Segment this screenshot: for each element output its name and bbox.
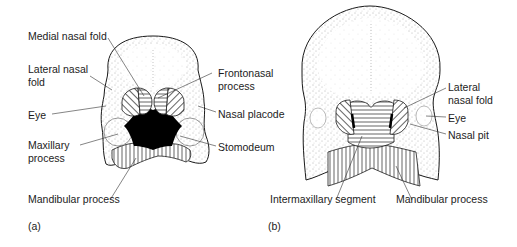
label-eye-b: Eye [448, 112, 466, 124]
panel-b-drawing [302, 6, 446, 200]
panel-b-tag: (b) [268, 220, 281, 232]
label-frontonasal-process-line2: process [218, 80, 255, 92]
label-nasal-pit: Nasal pit [448, 129, 489, 141]
label-medial-nasal-fold: Medial nasal fold [28, 30, 107, 42]
label-stomodeum: Stomodeum [218, 141, 275, 153]
label-mandibular-process-a: Mandibular process [28, 193, 120, 205]
label-mandibular-process-b: Mandibular process [396, 193, 488, 205]
label-lateral-nasal-fold-a-line1: Lateral nasal [28, 63, 88, 75]
label-maxillary-process-line2: process [28, 152, 65, 164]
label-maxillary-process-line1: Maxillary [28, 139, 69, 151]
label-lateral-nasal-fold-a-line2: fold [28, 76, 45, 88]
panel-a-tag: (a) [28, 220, 41, 232]
label-eye-a: Eye [28, 109, 46, 121]
label-intermaxillary-segment: Intermaxillary segment [270, 193, 376, 205]
panel-a-nasal-placode-left [122, 88, 152, 116]
label-frontonasal-process-line1: Frontonasal [218, 67, 273, 79]
label-nasal-placode: Nasal placode [218, 108, 285, 120]
panel-b-mandibular [328, 144, 420, 186]
panel-b-intermaxillary [348, 101, 394, 148]
label-lateral-nasal-fold-b-line1: Lateral [448, 81, 480, 93]
panel-a-nasal-placode-right [154, 88, 184, 116]
label-lateral-nasal-fold-b-line2: nasal fold [448, 94, 493, 106]
panel-a-drawing [52, 36, 216, 200]
